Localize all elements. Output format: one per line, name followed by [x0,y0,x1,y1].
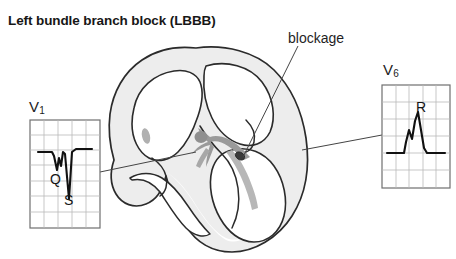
v6-lead-label-subscript: 6 [393,68,399,79]
figure-canvas: Left bundle branch block (LBBB) [0,0,456,259]
heart-illustration [109,47,307,252]
v1-lead-label-text: V [29,98,39,115]
v6-connector-line [302,135,382,150]
v6-lead-label: V6 [383,61,399,79]
blockage-annotation-label: blockage [288,30,344,46]
v1-q-wave-letter: Q [50,171,61,187]
ecg-box-v1 [30,120,100,228]
diagram-artwork [0,0,456,259]
v1-lead-label-subscript: 1 [39,105,45,116]
v6-r-wave-letter: R [416,99,426,115]
v1-s-wave-letter: S [64,192,73,208]
v6-lead-label-text: V [383,61,393,78]
av-node [195,131,208,143]
v1-lead-label: V1 [29,98,45,116]
